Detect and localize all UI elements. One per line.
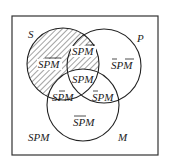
region-center: SPM	[72, 73, 94, 85]
set-label-p: P	[136, 32, 144, 44]
region-outside: SPM	[28, 131, 50, 143]
set-label-s: S	[28, 28, 34, 40]
region-s-p-only: SPM	[72, 45, 94, 57]
region-p-only: SPM	[111, 59, 133, 71]
region-s-m-only: SPM	[52, 91, 74, 103]
venn-diagram: S P M SPM SPM SPM SPM SPM SPM SPM SPM	[0, 0, 169, 165]
set-label-m: M	[117, 131, 128, 143]
region-p-m-only: SPM	[92, 91, 114, 103]
region-s-only: SPM	[38, 58, 60, 70]
region-m-only: SPM	[73, 116, 95, 128]
